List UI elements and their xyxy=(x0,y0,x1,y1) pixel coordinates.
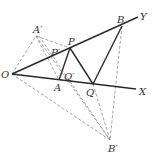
label-A: A xyxy=(53,82,61,93)
dashed-Q-Bprime xyxy=(93,84,110,140)
label-O: O xyxy=(1,69,9,80)
label-A-prime: A′ xyxy=(32,24,43,35)
label-Q: Q xyxy=(86,87,94,98)
geometry-diagram: O A Q P B A′ B′ P′ Q′ X Y xyxy=(0,0,158,163)
label-B-prime: B′ xyxy=(107,143,118,154)
label-P-prime: P′ xyxy=(50,47,61,58)
label-Y: Y xyxy=(140,11,148,22)
dashed-B-Bprime xyxy=(110,26,122,140)
dashed-Aprime-Bprime-2 xyxy=(39,36,110,140)
label-Q-prime: Q′ xyxy=(64,71,75,82)
label-X: X xyxy=(138,86,147,97)
label-P: P xyxy=(67,36,75,47)
ray-OY xyxy=(12,17,138,74)
label-B: B xyxy=(116,14,124,25)
diagram-svg: O A Q P B A′ B′ P′ Q′ X Y xyxy=(0,0,158,163)
